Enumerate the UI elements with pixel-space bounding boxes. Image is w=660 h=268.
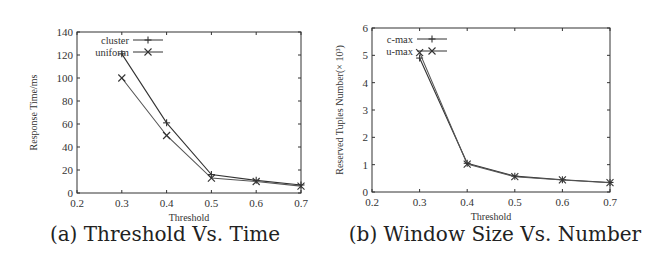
svg-text:uniform: uniform (95, 47, 129, 58)
y-axis: 020406080100120140 (57, 26, 302, 199)
x-tick-label: 0.4 (160, 197, 174, 209)
series-u-max (416, 49, 613, 186)
plus-marker-icon (298, 181, 305, 188)
x-axis-label: Threshold (471, 211, 512, 222)
y-tick-label: 4 (363, 77, 369, 89)
legend-plus-icon (429, 36, 436, 43)
series-cluster (118, 50, 304, 188)
x-tick-label: 0.6 (556, 196, 570, 208)
y-tick-label: 0 (68, 187, 74, 199)
chart-window-size-vs-number: 0.20.30.40.50.60.70123456ThresholdReserv… (330, 0, 660, 268)
x-tick-label: 0.3 (115, 197, 129, 209)
x-tick-label: 0.6 (249, 197, 263, 209)
y-tick-label: 3 (363, 104, 369, 116)
x-tick-label: 0.7 (603, 196, 617, 208)
y-tick-label: 60 (62, 118, 74, 130)
x-tick-label: 0.7 (294, 197, 308, 209)
y-tick-label: 0 (363, 186, 369, 198)
x-tick-label: 0.3 (413, 196, 427, 208)
x-tick-label: 0.5 (508, 196, 522, 208)
y-tick-label: 140 (57, 26, 74, 38)
cross-marker-icon (118, 75, 125, 82)
y-tick-label: 2 (363, 131, 369, 143)
x-tick-label: 0.4 (460, 196, 474, 208)
y-tick-label: 40 (62, 141, 74, 153)
y-tick-label: 80 (62, 95, 74, 107)
y-tick-label: 100 (57, 72, 74, 84)
y-tick-label: 1 (363, 159, 369, 171)
legend-item-uniform: uniform (95, 47, 163, 58)
svg-text:u-max: u-max (386, 46, 414, 57)
y-tick-label: 5 (363, 49, 369, 61)
chart-caption: (a) Threshold Vs. Time (0, 222, 330, 246)
series-c-max (416, 55, 613, 186)
chart-caption: (b) Window Size Vs. Number (330, 222, 660, 246)
chart-threshold-vs-time: 0.20.30.40.50.60.7020406080100120140Thre… (0, 0, 330, 268)
y-axis-label: Response Time/ms (28, 74, 39, 150)
legend-item-c-max: c-max (387, 34, 447, 45)
y-tick-label: 120 (57, 49, 74, 61)
plus-marker-icon (253, 177, 260, 184)
y-axis-label: Reserved Tuples Number(× 10³) (334, 45, 346, 174)
legend-item-cluster: cluster (101, 35, 163, 46)
x-tick-label: 0.5 (205, 197, 219, 209)
cross-marker-icon (163, 132, 170, 139)
svg-text:cluster: cluster (101, 35, 129, 46)
y-tick-label: 20 (62, 164, 74, 176)
legend-plus-icon (145, 37, 152, 44)
y-tick-label: 6 (363, 22, 369, 34)
svg-text:c-max: c-max (387, 34, 414, 45)
